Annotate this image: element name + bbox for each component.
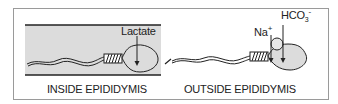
sodium-text: Na [254,26,268,38]
sodium-label: Na+ [254,24,272,38]
transition-arrow-icon [165,59,171,64]
sperm-outside-icon [172,44,307,70]
outside-epididymis-caption: OUTSIDE EPIDIDYMIS [184,83,296,95]
bicarbonate-subscript: 3 [305,16,309,23]
bicarbonate-label: HCO3- [281,7,311,23]
sodium-charge: + [268,24,272,33]
inside-epididymis-caption: INSIDE EPIDIDYMIS [47,83,147,95]
lactate-label: Lactate [121,25,156,37]
bicarbonate-charge: - [309,7,311,16]
bicarbonate-text: HCO [281,9,305,21]
